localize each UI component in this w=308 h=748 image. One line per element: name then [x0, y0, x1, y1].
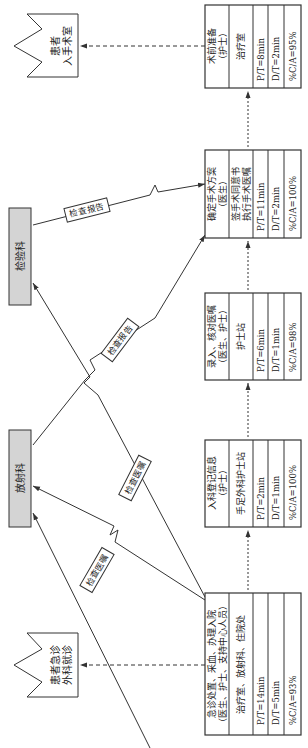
flow-label-report-lab: 检查报告: [64, 198, 110, 222]
process-5-dt: D/T=2min: [271, 36, 281, 81]
flow-label-exam-order-radiology: 检查医嘱: [80, 547, 114, 592]
process-4-ca: %C/A=100%: [288, 176, 298, 231]
start-patient-shape: 患者急诊 外科就诊: [14, 633, 78, 697]
process-1-pt: P/T=14min: [256, 676, 266, 725]
process-box-admission: 入科登记信息 （护士） 手足外科护士站 P/T=2min D/T=1min %C…: [205, 440, 301, 527]
process-4-location-1: 签手术同意书: [230, 167, 241, 221]
end-patient-shape: 患者 入手术室: [14, 14, 78, 77]
end-label-1: 患者: [50, 36, 61, 56]
process-2-dt: D/T=1min: [271, 475, 281, 520]
process-3-location: 护士站: [235, 323, 246, 350]
process-1-role: （医生、护士、支持中心人员）: [217, 601, 228, 727]
value-stream-map: 患者 入手术室 患者急诊 外科就诊 检验科 放射科: [0, 0, 308, 748]
process-1-ca: %C/A=93%: [288, 675, 298, 725]
process-box-preop: 术前准备 （护士） 治疗室 P/T=8min D/T=2min %C/A=95%: [205, 5, 301, 88]
process-3-title: 录入、核对医嘱: [206, 305, 217, 368]
flow-label-exam-order-lab: 检查医嘱: [119, 455, 151, 501]
process-3-role: （医生、护士）: [217, 305, 228, 368]
process-5-pt: P/T=8min: [256, 37, 266, 81]
process-4-location-2: 执行手术医嘱: [241, 167, 252, 221]
process-4-role: （医生）: [217, 176, 228, 212]
process-box-order-entry: 录入、核对医嘱 （医生、护士） 护士站 P/T=6min D/T=1min %C…: [205, 293, 301, 380]
lab-label: 检验科: [14, 241, 26, 271]
start-label-1: 患者急诊: [49, 645, 61, 685]
end-label-2: 入手术室: [61, 26, 73, 66]
process-4-dt: D/T=2min: [271, 186, 281, 231]
lab-department-box: 检验科: [9, 208, 31, 305]
process-3-ca: %C/A=98%: [288, 322, 298, 372]
process-box-surgery-plan: 确定手术方案 （医生） 签手术同意书 执行手术医嘱 P/T=11min D/T=…: [205, 150, 301, 238]
process-4-pt: P/T=11min: [256, 182, 266, 231]
process-2-location: 手足外科护士站: [235, 452, 246, 515]
radiology-label: 放射科: [14, 463, 26, 493]
process-1-title: 急诊处置、采血、办理入院: [206, 610, 217, 718]
flow-label-report-radiology: 检查报告: [101, 318, 139, 362]
process-5-role: （护士）: [217, 28, 228, 64]
process-5-ca: %C/A=95%: [288, 31, 298, 81]
process-3-pt: P/T=6min: [256, 328, 266, 372]
start-label-2: 外科就诊: [61, 645, 73, 685]
process-5-location: 治疗室: [235, 33, 246, 60]
process-1-location: 治疗室、放射科、住院处: [235, 615, 246, 714]
radiology-department-box: 放射科: [9, 430, 31, 527]
process-2-title: 入科登记信息: [206, 456, 217, 510]
process-box-emergency: 急诊处置、采血、办理入院 （医生、护士、支持中心人员） 治疗室、放射科、住院处 …: [205, 593, 301, 735]
process-4-title: 确定手术方案: [206, 167, 217, 221]
process-2-pt: P/T=2min: [256, 476, 266, 520]
process-5-title: 术前准备: [206, 28, 217, 64]
process-2-role: （护士）: [217, 465, 228, 501]
process-2-ca: %C/A=100%: [288, 465, 298, 520]
process-1-dt: D/T=5min: [271, 680, 281, 725]
process-3-dt: D/T=1min: [271, 327, 281, 372]
